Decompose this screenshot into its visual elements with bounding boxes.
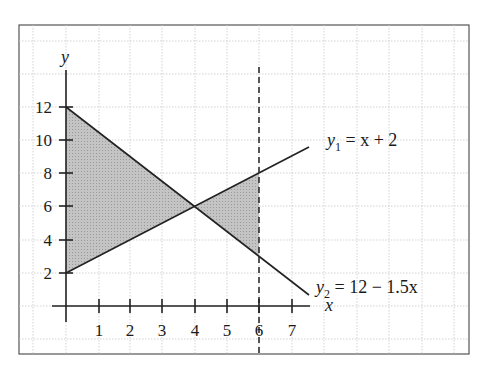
svg-text:10: 10 [35, 131, 52, 150]
svg-text:1: 1 [95, 321, 104, 340]
chart-canvas: 12 10 8 6 4 2 1 2 3 4 5 6 7 y x y1 = x +… [0, 0, 481, 367]
svg-text:6: 6 [44, 197, 53, 216]
y-axis-label: y [59, 47, 69, 67]
svg-text:2: 2 [126, 321, 135, 340]
svg-text:4: 4 [44, 231, 53, 250]
svg-text:5: 5 [223, 321, 232, 340]
svg-text:12: 12 [35, 98, 52, 117]
svg-text:6: 6 [255, 321, 264, 340]
svg-text:3: 3 [158, 321, 167, 340]
svg-text:8: 8 [44, 164, 53, 183]
svg-text:2: 2 [44, 264, 53, 283]
svg-text:4: 4 [191, 321, 200, 340]
svg-text:7: 7 [288, 321, 297, 340]
